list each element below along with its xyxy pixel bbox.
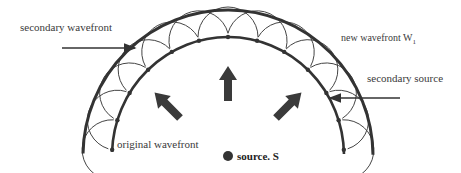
source-label: source. S bbox=[237, 150, 279, 162]
secondary-source-node bbox=[282, 50, 286, 54]
secondary-source-node bbox=[127, 91, 131, 95]
secondary-wavelet bbox=[286, 40, 338, 91]
secondary-source-node bbox=[170, 50, 174, 54]
original-wavefront-label: original wavefront bbox=[117, 138, 199, 150]
source-point bbox=[223, 151, 233, 161]
secondary-source-node bbox=[255, 39, 259, 43]
secondary-source-node bbox=[306, 67, 310, 71]
new-wavefront-label: new wavefront W1 bbox=[341, 32, 416, 48]
secondary-source-node bbox=[110, 148, 114, 152]
propagation-arrows bbox=[148, 66, 308, 124]
arrow-up-left-icon bbox=[148, 86, 186, 124]
secondary-source-node bbox=[115, 118, 119, 122]
secondary-source-node bbox=[226, 35, 230, 39]
secondary-source-node bbox=[146, 67, 150, 71]
secondary-wavefront-label: secondary wavefront bbox=[20, 21, 112, 33]
secondary-source-node bbox=[336, 118, 340, 122]
arrow-up-right-icon bbox=[270, 86, 308, 124]
new-wavefront-subscript: 1 bbox=[412, 38, 416, 46]
secondary-source-node bbox=[197, 39, 201, 43]
secondary-source-node bbox=[324, 91, 328, 95]
new-wavefront-text: new wavefront W bbox=[341, 32, 412, 43]
huygens-diagram: secondary wavefront new wavefront W1 sec… bbox=[0, 0, 461, 173]
secondary-source-node bbox=[342, 148, 346, 152]
arrow-up-icon bbox=[219, 66, 237, 101]
secondary-source-label: secondary source bbox=[367, 72, 443, 84]
